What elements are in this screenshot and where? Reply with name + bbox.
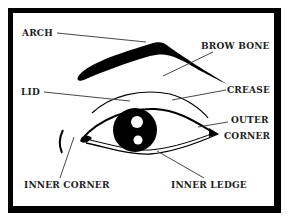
label-outer-corner-2: CORNER <box>224 131 270 141</box>
leader-arch <box>57 33 146 42</box>
iris <box>113 108 157 152</box>
label-inner-corner: INNER CORNER <box>24 180 110 190</box>
leader-inner-corner <box>60 137 74 178</box>
label-arch: ARCH <box>22 28 53 38</box>
label-outer-corner-1: OUTER <box>231 115 269 125</box>
label-crease: CREASE <box>227 85 270 95</box>
leader-crease <box>172 90 226 100</box>
label-brow-bone: BROW BONE <box>201 41 270 51</box>
label-inner-ledge: INNER LEDGE <box>171 180 247 190</box>
nose-mark <box>60 130 63 153</box>
leader-outer-corner <box>198 122 228 127</box>
highlight-upper <box>131 116 143 128</box>
label-lid: LID <box>21 87 40 97</box>
highlight-lower <box>134 136 143 145</box>
leader-lid <box>44 92 130 101</box>
inner-corner-shape <box>80 136 92 143</box>
leader-inner-ledge <box>157 151 204 178</box>
